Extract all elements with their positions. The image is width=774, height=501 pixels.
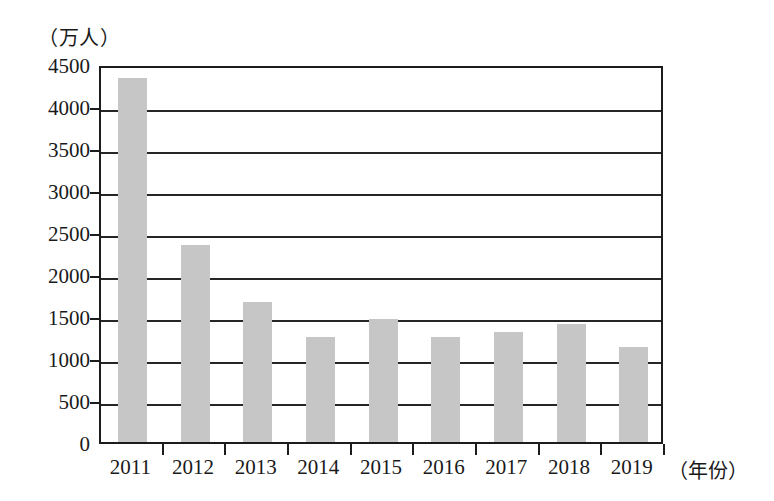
- y-axis-tick-mark: [90, 360, 99, 362]
- bar-chart-figure: （万人） 05001000150020002500300035004000450…: [0, 0, 774, 501]
- gridline: [101, 152, 661, 154]
- bar: [118, 78, 147, 442]
- x-axis-tick-mark: [224, 444, 226, 455]
- y-axis-tick-mark: [90, 318, 99, 320]
- y-axis-tick-label: 4000: [0, 98, 90, 119]
- x-axis-tick-label: 2018: [534, 455, 604, 480]
- bar: [557, 324, 586, 442]
- x-axis-tick-mark: [663, 444, 665, 455]
- y-axis-tick-mark: [90, 108, 99, 110]
- y-axis-tick-label: 1000: [0, 350, 90, 371]
- bar: [181, 245, 210, 442]
- x-axis-tick-label: 2011: [95, 455, 165, 480]
- x-axis-unit-label: （年份）: [668, 455, 748, 484]
- bar: [431, 337, 460, 442]
- y-axis-tick-mark: [90, 402, 99, 404]
- y-axis-tick-labels: 050010001500200025003000350040004500: [0, 66, 90, 444]
- x-axis-tick-mark: [162, 444, 164, 455]
- x-axis-tick-marks: [99, 444, 663, 455]
- gridline: [101, 236, 661, 238]
- x-axis-tick-label: 2019: [597, 455, 667, 480]
- x-axis-tick-label: 2013: [221, 455, 291, 480]
- y-axis-tick-label: 2000: [0, 266, 90, 287]
- x-axis-tick-label: 2016: [409, 455, 479, 480]
- y-axis-tick-label: 2500: [0, 224, 90, 245]
- bar: [369, 319, 398, 442]
- x-axis-tick-label: 2014: [283, 455, 353, 480]
- gridline: [101, 110, 661, 112]
- x-axis-tick-label: 2015: [346, 455, 416, 480]
- x-axis-tick-mark: [412, 444, 414, 455]
- bar: [494, 332, 523, 442]
- bar: [306, 337, 335, 442]
- gridline: [101, 194, 661, 196]
- y-axis-tick-label: 0: [0, 434, 90, 455]
- y-axis-tick-mark: [90, 150, 99, 152]
- bar: [243, 302, 272, 442]
- y-axis-tick-mark: [90, 234, 99, 236]
- y-axis-tick-label: 3500: [0, 140, 90, 161]
- y-axis-tick-mark: [90, 276, 99, 278]
- x-axis-tick-label: 2017: [471, 455, 541, 480]
- plot-area: [99, 66, 663, 444]
- y-axis-unit-label: （万人）: [38, 22, 120, 51]
- y-axis-tick-mark: [90, 192, 99, 194]
- y-axis-tick-label: 1500: [0, 308, 90, 329]
- x-axis-tick-labels: 201120122013201420152016201720182019: [99, 455, 663, 489]
- x-axis-tick-mark: [475, 444, 477, 455]
- x-axis-tick-mark: [600, 444, 602, 455]
- y-axis-tick-label: 4500: [0, 56, 90, 77]
- x-axis-tick-mark: [350, 444, 352, 455]
- y-axis-tick-label: 3000: [0, 182, 90, 203]
- x-axis-tick-label: 2012: [158, 455, 228, 480]
- x-axis-tick-mark: [287, 444, 289, 455]
- x-axis-tick-mark: [538, 444, 540, 455]
- y-axis-tick-label: 500: [0, 392, 90, 413]
- bar: [619, 347, 648, 442]
